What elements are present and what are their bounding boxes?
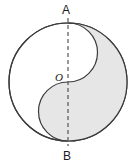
vertex-label-b: B [63, 150, 71, 162]
geometry-figure: A O B [0, 0, 136, 166]
center-label-o: O [55, 72, 63, 83]
taijitu-diagram [0, 0, 136, 166]
vertex-label-a: A [62, 4, 70, 16]
